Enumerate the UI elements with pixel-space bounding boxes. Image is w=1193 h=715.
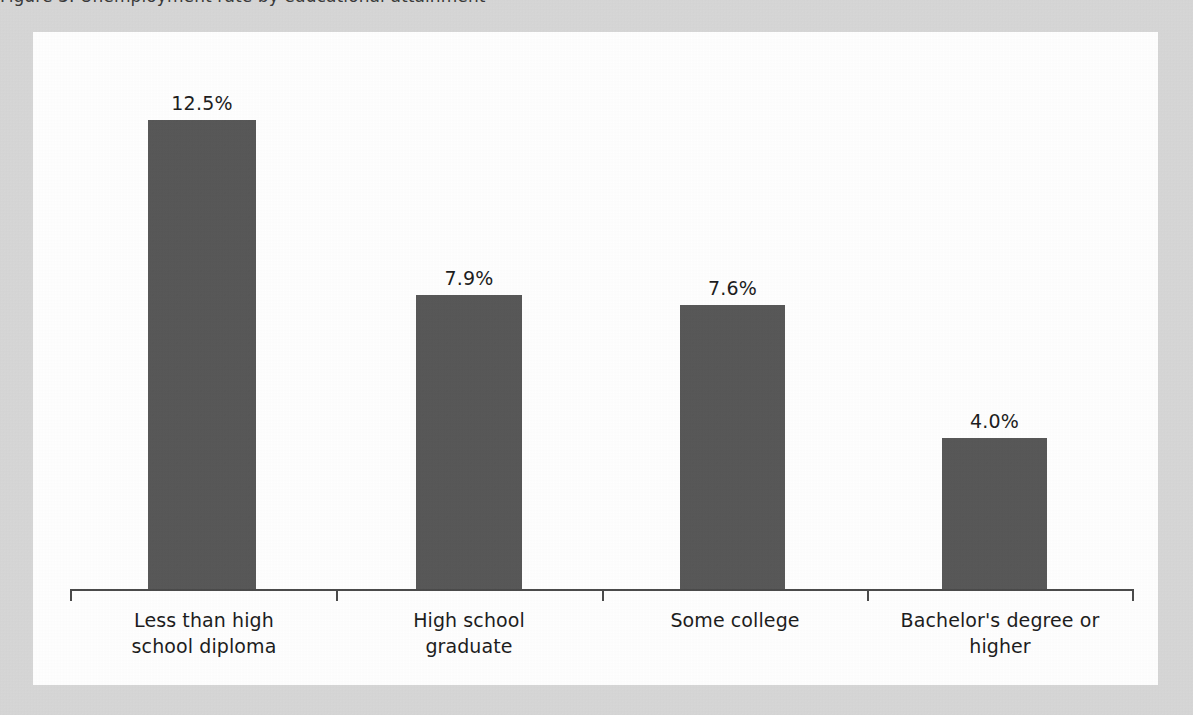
bar-value-label: 7.9% bbox=[416, 267, 522, 289]
x-axis-category-label: High school graduate bbox=[337, 607, 601, 659]
x-axis-category-label: Some college bbox=[603, 607, 867, 633]
x-axis-tick bbox=[336, 590, 338, 601]
bar-value-label: 7.6% bbox=[680, 277, 785, 299]
bar-chart-plot-area: 12.5% 7.9% 7.6% 4.0% Less than high scho… bbox=[33, 32, 1158, 685]
category-label-line: graduate bbox=[337, 633, 601, 659]
bar-bachelors-or-higher[interactable] bbox=[942, 438, 1047, 589]
bar-value-label: 12.5% bbox=[148, 92, 256, 114]
category-label-line: school diploma bbox=[72, 633, 336, 659]
x-axis-tick bbox=[867, 590, 869, 601]
bar-value-label: 4.0% bbox=[942, 410, 1047, 432]
bar-some-college[interactable] bbox=[680, 305, 785, 589]
cropped-figure-title: Figure 3. Unemployment rate by education… bbox=[0, 0, 700, 6]
x-axis-tick bbox=[1132, 590, 1134, 601]
bar-high-school-graduate[interactable] bbox=[416, 295, 522, 589]
x-axis-category-label: Less than high school diploma bbox=[72, 607, 336, 659]
x-axis-tick bbox=[70, 590, 72, 601]
category-label-line: Some college bbox=[603, 607, 867, 633]
x-axis-category-label: Bachelor's degree or higher bbox=[868, 607, 1132, 659]
x-axis-tick bbox=[602, 590, 604, 601]
category-label-line: higher bbox=[868, 633, 1132, 659]
category-label-line: Less than high bbox=[72, 607, 336, 633]
bar-less-than-high-school[interactable] bbox=[148, 120, 256, 589]
category-label-line: High school bbox=[337, 607, 601, 633]
category-label-line: Bachelor's degree or bbox=[868, 607, 1132, 633]
chart-card: 12.5% 7.9% 7.6% 4.0% Less than high scho… bbox=[33, 32, 1158, 685]
